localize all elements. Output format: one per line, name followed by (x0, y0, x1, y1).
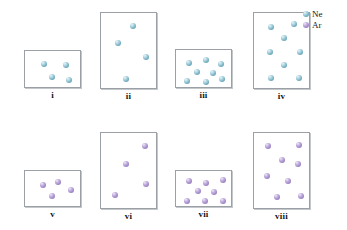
particle-ne (203, 79, 209, 85)
particle-ne (143, 54, 149, 60)
particle-ar (123, 161, 129, 167)
particle-ne (66, 77, 72, 83)
particle-ne (49, 74, 55, 80)
gas-box-i (24, 50, 81, 88)
particle-ar (40, 182, 46, 188)
box-label-vii: vii (175, 209, 232, 219)
particle-ar (186, 178, 192, 184)
particle-ne (291, 21, 297, 27)
particle-ar (295, 161, 301, 167)
particle-ar (49, 193, 55, 199)
particle-ar (55, 179, 61, 185)
gas-box-vi (100, 132, 157, 209)
gas-box-v (24, 170, 81, 207)
legend: NeAr (303, 8, 345, 30)
particle-ne (210, 70, 216, 76)
particle-ar (220, 198, 226, 204)
particle-ne (203, 57, 209, 63)
box-label-i: i (24, 90, 81, 100)
particle-ar (220, 177, 226, 183)
particle-ne (281, 35, 287, 41)
particle-ar (142, 143, 148, 149)
particle-ne (296, 75, 302, 81)
legend-label: Ar (312, 20, 322, 30)
particle-ne (268, 24, 274, 30)
particle-ne (194, 69, 200, 75)
particle-ne (218, 61, 224, 67)
gas-box-iv (253, 12, 310, 89)
box-label-iii: iii (175, 90, 232, 100)
gas-box-vii (175, 170, 232, 207)
particle-ne (41, 61, 47, 67)
particle-ne (63, 62, 69, 68)
box-label-v: v (24, 209, 81, 219)
legend-label: Ne (312, 9, 323, 19)
particle-ar (296, 142, 302, 148)
particle-diagram-figure: iiiiiiivvviviiviii NeAr (0, 0, 347, 230)
particle-ar (68, 187, 74, 193)
box-label-iv: iv (253, 91, 310, 101)
particle-ar (112, 192, 118, 198)
box-label-viii: viii (253, 211, 310, 221)
particle-ne (268, 75, 274, 81)
particle-ne (123, 76, 129, 82)
gas-box-iii (175, 49, 232, 88)
particle-ar (264, 173, 270, 179)
box-label-vi: vi (100, 211, 157, 221)
particle-ar (274, 194, 280, 200)
particle-ar (279, 157, 285, 163)
particle-ar (298, 193, 304, 199)
box-label-ii: ii (100, 91, 157, 101)
sphere-icon (303, 22, 309, 28)
particle-ar (285, 178, 291, 184)
sphere-icon (303, 11, 309, 17)
legend-item-ne: Ne (303, 8, 345, 19)
particle-ne (115, 40, 121, 46)
particle-ar (184, 198, 190, 204)
legend-item-ar: Ar (303, 19, 345, 30)
gas-box-ii (100, 12, 157, 89)
particle-ar (211, 189, 217, 195)
particle-ne (267, 49, 273, 55)
particle-ne (281, 62, 287, 68)
particle-ar (143, 181, 149, 187)
particle-ne (297, 49, 303, 55)
particle-ne (186, 60, 192, 66)
particle-ne (219, 76, 225, 82)
particle-ar (195, 188, 201, 194)
gas-box-viii (253, 132, 310, 209)
particle-ne (130, 23, 136, 29)
particle-ne (184, 78, 190, 84)
particle-ar (202, 198, 208, 204)
particle-ar (203, 180, 209, 186)
particle-ar (265, 143, 271, 149)
